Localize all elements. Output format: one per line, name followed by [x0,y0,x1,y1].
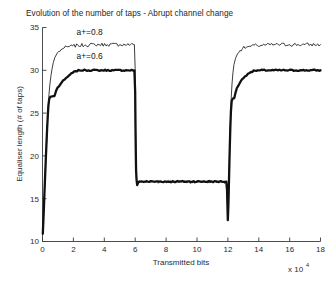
x-tick-label: 2 [71,245,76,254]
annotation-a-plus-0-8: a+=0.8 [77,27,103,37]
x-tick-label: 10 [193,245,202,254]
y-tick-label: 20 [30,152,39,161]
x-axis-tick-labels: 0 2 4 6 8 10 12 14 16 18 [40,245,325,254]
y-tick-label: 10 [30,237,39,246]
chart-figure: Evolution of the number of taps - Abrupt… [0,0,334,292]
x-tick-label: 18 [316,245,325,254]
chart-plot-area: 10 15 20 25 30 35 0 2 4 6 8 10 [0,0,334,292]
x-axis-title: Transmitted bits [153,258,210,267]
x-tick-label: 14 [254,245,263,254]
y-tick-label: 35 [30,23,39,32]
y-tick-label: 15 [30,195,39,204]
x-axis-ticks [43,238,321,242]
y-axis-title: Equaliser length (# of taps) [15,86,24,182]
x-tick-label: 6 [133,245,138,254]
y-tick-label: 25 [30,109,39,118]
y-tick-label: 30 [30,66,39,75]
series-line-a-plus-0-6 [43,70,321,234]
x-axis-exponent-base: x 10 [288,265,304,274]
annotation-a-plus-0-6: a+=0.6 [77,51,103,61]
x-tick-label: 0 [40,245,45,254]
x-tick-label: 4 [102,245,107,254]
series-line-a-plus-0-8 [43,43,321,234]
y-axis-tick-labels: 10 15 20 25 30 35 [30,23,39,246]
x-tick-label: 12 [223,245,232,254]
x-tick-label: 8 [164,245,169,254]
x-tick-label: 16 [285,245,294,254]
x-axis-exponent-power: 4 [306,262,309,268]
